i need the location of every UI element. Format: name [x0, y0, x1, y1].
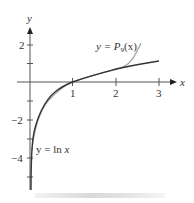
- ln-curve: [31, 61, 159, 190]
- bottom-shadow-bar: [35, 193, 165, 198]
- y-tick-label-neg2: −2: [11, 114, 23, 126]
- x-tick-label-2: 2: [113, 87, 119, 99]
- x-axis-arrow-icon: [170, 79, 177, 85]
- x-tick-label-1: 1: [70, 87, 76, 99]
- y-axis-label: y: [26, 12, 32, 24]
- y-axis-arrow-icon: [27, 27, 33, 34]
- ln-curve-label: y = ln x: [36, 143, 70, 155]
- chart: y x 1 2 3 2 −2 −4 y = P9(x) y = ln x: [0, 0, 194, 203]
- p9-curve: [32, 43, 141, 150]
- x-tick-label-3: 3: [156, 87, 162, 99]
- x-axis-label: x: [179, 76, 185, 88]
- y-tick-label-neg4: −4: [11, 152, 23, 164]
- y-tick-label-2: 2: [19, 39, 25, 51]
- p9-curve-label: y = P9(x): [95, 40, 137, 54]
